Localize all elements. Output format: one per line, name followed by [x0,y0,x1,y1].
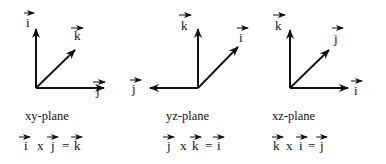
svg-text:j: j [319,138,324,153]
unit-vector-diagram: i k j xy-plane i x j = k k [0,0,386,164]
cross-product-equation: i x j = k [19,137,82,153]
panel-yz-plane: k i j yz-plane j x k = i [130,15,248,153]
vector-label-j: j [131,81,136,96]
svg-text:=: = [308,138,315,153]
panel-xz-plane: k j i xz-plane k x i = j [272,15,362,153]
svg-text:j: j [166,138,171,153]
vector-label-k: k [74,28,81,43]
svg-text:i: i [217,138,221,153]
svg-text:k: k [192,138,199,153]
svg-text:x: x [37,138,44,153]
svg-text:i: i [24,138,28,153]
plane-caption: yz-plane [166,109,209,123]
label-diagonal: k [71,28,83,43]
label-up: i [24,13,34,30]
label-up: k [273,15,285,33]
label-diagonal: j [332,28,343,46]
vector-diagonal-arrow [36,50,75,88]
vector-label-i: i [26,15,30,30]
svg-text:x: x [286,138,293,153]
svg-text:i: i [299,138,303,153]
vector-diagonal-arrow [290,50,329,88]
svg-text:=: = [62,138,69,153]
vector-label-i: i [239,30,243,45]
vector-label-j: j [95,83,100,98]
vector-label-j: j [333,31,338,46]
vector-label-k: k [181,18,188,33]
label-horizontal: j [93,82,105,98]
svg-text:x: x [180,138,187,153]
svg-text:k: k [273,138,280,153]
cross-product-equation: j x k = i [163,137,224,153]
cross-product-equation: k x i = j [272,137,327,153]
svg-text:k: k [74,138,81,153]
vector-diagonal-arrow [198,47,238,88]
vector-label-k: k [275,18,282,33]
svg-text:j: j [50,138,55,153]
label-horizontal: i [351,81,362,98]
label-diagonal: i [237,28,248,45]
plane-caption: xy-plane [25,109,69,123]
vector-label-i: i [354,83,358,98]
label-horizontal: j [130,80,141,96]
label-up: k [179,15,191,33]
svg-text:=: = [205,138,212,153]
plane-caption: xz-plane [272,109,315,123]
panel-xy-plane: i k j xy-plane i x j = k [19,13,105,153]
